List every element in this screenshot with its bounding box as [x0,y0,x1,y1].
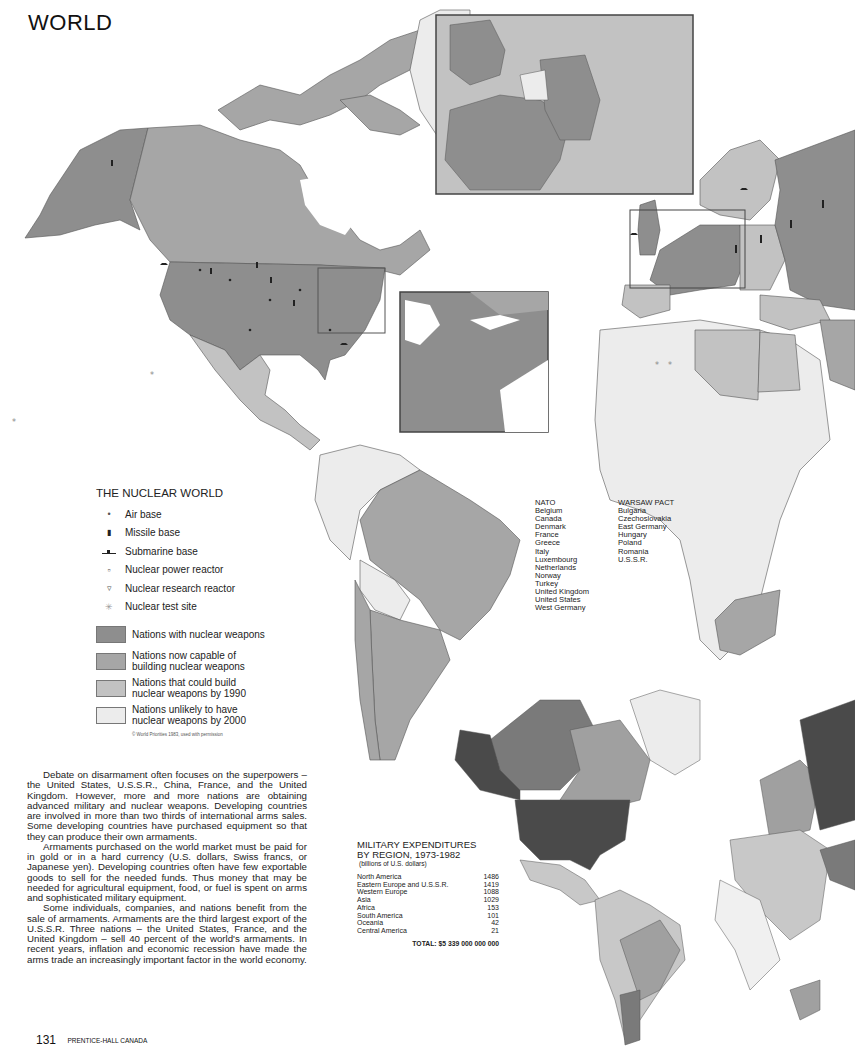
svg-text:*: * [655,361,659,370]
expenditure-map [455,690,855,1045]
air-base-icon: • [96,509,122,519]
publisher: PRENTICE-HALL CANADA [67,1037,147,1044]
svg-text:*: * [12,418,16,427]
expenditures-total: TOTAL: $5 339 000 000 000 [357,940,499,947]
legend-category-unlikely-2000: Nations unlikely to havenuclear weapons … [96,702,346,728]
paragraph: Debate on disarmament often focuses on t… [27,770,307,842]
swatch-could-build-1990 [96,680,126,697]
missile-base-icon: ▮ [96,528,122,537]
region-canada [130,125,430,275]
military-expenditures-table: MILITARY EXPENDITURES BY REGION, 1973-19… [357,840,499,947]
legend-item-air-base: • Air base [96,505,346,524]
article-body: Debate on disarmament often focuses on t… [27,770,307,965]
region-turkey [760,295,830,330]
swatch-capable-now [96,653,126,670]
legend-category-could-build-1990: Nations that could buildnuclear weapons … [96,675,346,701]
paragraph: Some individuals, companies, and nations… [27,903,307,965]
legend-category-nuclear: Nations with nuclear weapons [96,621,346,647]
table-row: South America101 [357,912,499,920]
map-legend: THE NUCLEAR WORLD • Air base ▮ Missile b… [96,487,346,737]
table-row: Africa153 [357,904,499,912]
swatch-nuclear-weapons [96,626,126,643]
legend-item-test-site: ✳ Nuclear test site [96,598,346,617]
warsaw-pact-list: WARSAW PACT Bulgaria Czechoslovakia East… [618,499,708,564]
region-uk [638,200,660,255]
page-title: WORLD [28,10,112,36]
table-row: Western Europe1088 [357,888,499,896]
nuclear-research-reactor-icon: ▿ [96,583,122,593]
legend-category-capable-now: Nations now capable ofbuilding nuclear w… [96,648,346,674]
region-usa [160,262,385,380]
legend-item-research-reactor: ▿ Nuclear research reactor [96,579,346,598]
svg-text:*: * [150,371,154,380]
region-ussr [775,130,855,310]
region-argentina [370,610,450,760]
submarine-base-icon [96,548,122,554]
legend-title: THE NUCLEAR WORLD [96,487,346,499]
swatch-unlikely-2000 [96,707,126,724]
region-egypt [758,332,800,392]
region-iberia [622,285,670,318]
legend-item-missile-base: ▮ Missile base [96,524,346,543]
region-scandinavia [700,140,780,220]
page-number: 131 [36,1033,56,1047]
table-row: North America1486 [357,873,499,881]
nuclear-power-reactor-icon: ▫ [96,565,122,575]
svg-text:*: * [668,361,672,370]
paragraph: Armaments purchased on the world market … [27,842,307,904]
region-alaska [25,128,148,238]
page-footer: 131 PRENTICE-HALL CANADA [36,1033,147,1047]
region-western-europe [650,225,745,295]
table-row: Central America21 [357,927,499,935]
legend-item-submarine-base: Submarine base [96,542,346,561]
table-row: Oceania42 [357,919,499,927]
region-middle-east [820,320,855,390]
table-row: Asia1029 [357,896,499,904]
nuclear-test-site-icon: ✳ [96,602,122,612]
legend-credit: © World Priorities 1983, used with permi… [132,732,346,737]
nato-list: NATO Belgium Canada Denmark France Greec… [535,499,625,612]
table-row: Eastern Europe and U.S.S.R.1419 [357,881,499,889]
legend-item-power-reactor: ▫ Nuclear power reactor [96,561,346,580]
